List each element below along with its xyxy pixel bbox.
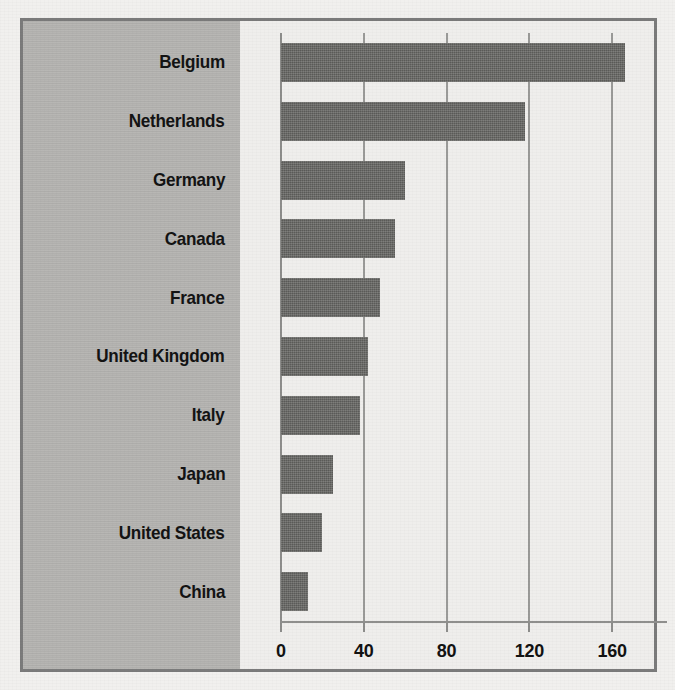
gridline-120 <box>528 33 530 621</box>
bar-united-states[interactable] <box>281 513 322 552</box>
plot-area: 04080120160 <box>240 21 654 669</box>
category-label-germany: Germany <box>153 169 225 191</box>
bar-canada[interactable] <box>281 219 395 258</box>
bar-united-kingdom[interactable] <box>281 337 368 376</box>
bar-japan[interactable] <box>281 455 333 494</box>
x-axis-tick-label: 0 <box>276 641 286 662</box>
category-label-japan: Japan <box>177 463 225 485</box>
bar-france[interactable] <box>281 278 380 317</box>
gridline-160 <box>611 33 613 621</box>
chart-frame: BelgiumNetherlandsGermanyCanadaFranceUni… <box>20 18 657 672</box>
category-label-france: France <box>171 287 225 309</box>
category-label-united-kingdom: United Kingdom <box>97 345 225 367</box>
bar-germany[interactable] <box>281 161 405 200</box>
x-axis-tick-label: 40 <box>354 641 374 662</box>
category-label-netherlands: Netherlands <box>129 110 225 132</box>
bar-belgium[interactable] <box>281 43 625 82</box>
bar-netherlands[interactable] <box>281 102 525 141</box>
bar-italy[interactable] <box>281 396 360 435</box>
category-label-china: China <box>179 581 225 603</box>
chart-page: BelgiumNetherlandsGermanyCanadaFranceUni… <box>0 0 675 690</box>
category-label-canada: Canada <box>165 228 225 250</box>
category-label-belgium: Belgium <box>159 51 225 73</box>
category-label-italy: Italy <box>192 404 225 426</box>
category-label-panel: BelgiumNetherlandsGermanyCanadaFranceUni… <box>23 21 240 669</box>
x-axis-tick-label: 160 <box>597 641 626 662</box>
bar-china[interactable] <box>281 572 308 611</box>
x-axis-line <box>280 621 667 623</box>
category-label-united-states: United States <box>119 522 225 544</box>
x-axis-tick-label: 80 <box>437 641 457 662</box>
x-axis-tick-label: 120 <box>515 641 544 662</box>
